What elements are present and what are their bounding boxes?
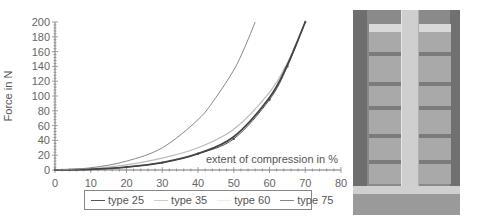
legend-swatch-icon — [154, 200, 168, 201]
y-tick-label: 160 — [32, 46, 50, 58]
x-tick-label: 10 — [85, 177, 97, 189]
legend: type 25 type 35 type 60 type 75 — [84, 190, 312, 210]
photo-base-plate — [353, 186, 460, 194]
force-compression-chart: 020406080100120140160180200 010203040506… — [0, 0, 350, 190]
y-tick-label: 40 — [38, 134, 50, 146]
photo-floor — [353, 194, 460, 215]
x-tick-label: 0 — [52, 177, 58, 189]
legend-swatch-icon — [280, 200, 294, 201]
series-line-type-60 — [55, 22, 305, 170]
legend-label: type 35 — [171, 194, 207, 206]
legend-item-type-25: type 25 — [91, 194, 144, 206]
x-tick-label: 60 — [263, 177, 275, 189]
legend-label: type 60 — [234, 194, 270, 206]
x-axis: 01020304050607080 — [52, 167, 347, 189]
photo-measuring-rod — [401, 10, 419, 192]
y-tick-label: 180 — [32, 31, 50, 43]
x-tick-label: 70 — [299, 177, 311, 189]
y-tick-label: 200 — [32, 16, 50, 28]
y-axis-title: Force in N — [2, 71, 14, 122]
photo-frame-right — [450, 10, 460, 215]
legend-item-type-60: type 60 — [217, 194, 270, 206]
x-tick-label: 20 — [120, 177, 132, 189]
x-tick-label: 40 — [192, 177, 204, 189]
y-tick-label: 60 — [38, 120, 50, 132]
y-tick-label: 80 — [38, 105, 50, 117]
y-tick-label: 140 — [32, 60, 50, 72]
y-tick-label: 120 — [32, 75, 50, 87]
y-tick-label: 20 — [38, 149, 50, 161]
specimen-photo — [353, 10, 460, 215]
legend-swatch-icon — [91, 200, 105, 201]
y-tick-label: 0 — [44, 164, 50, 176]
legend-label: type 75 — [297, 194, 333, 206]
legend-swatch-icon — [217, 200, 231, 201]
x-axis-title: extent of compression in % — [206, 153, 338, 165]
legend-label: type 25 — [108, 194, 144, 206]
series-line-type-25 — [55, 22, 305, 170]
series-layer — [54, 21, 307, 171]
series-line-type-35 — [55, 22, 305, 170]
x-tick-label: 50 — [228, 177, 240, 189]
y-axis: 020406080100120140160180200 — [32, 16, 58, 176]
legend-item-type-75: type 75 — [280, 194, 333, 206]
photo-frame-left — [353, 10, 367, 215]
legend-item-type-35: type 35 — [154, 194, 207, 206]
x-tick-label: 30 — [156, 177, 168, 189]
x-tick-label: 80 — [335, 177, 347, 189]
y-tick-label: 100 — [32, 90, 50, 102]
series-line-type-75 — [55, 22, 255, 170]
